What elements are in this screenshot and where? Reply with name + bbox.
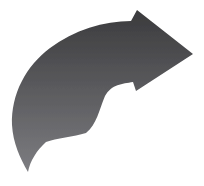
- curved-arrow-shape: [12, 10, 193, 172]
- curved-arrow-right-icon: [0, 0, 204, 186]
- image-background: [0, 0, 204, 186]
